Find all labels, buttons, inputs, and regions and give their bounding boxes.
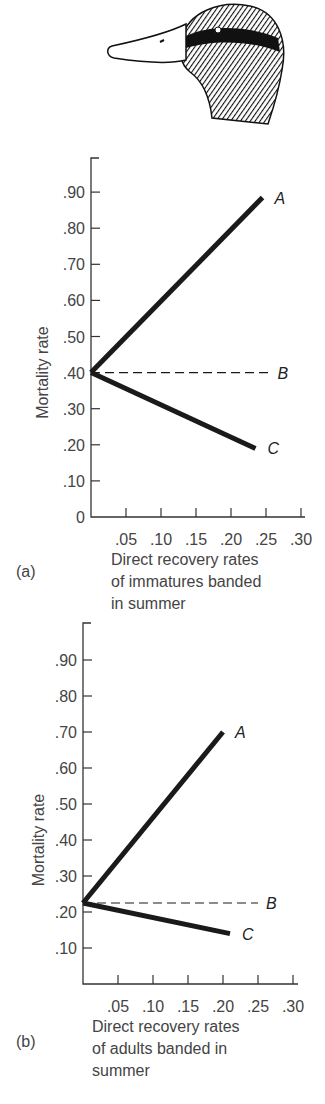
series-label-a: A: [234, 724, 246, 741]
y-tick-label: .90: [55, 652, 77, 669]
x-tick-label: .20: [212, 998, 234, 1015]
y-tick-label: .60: [55, 760, 77, 777]
x-tick-label: .05: [107, 998, 129, 1015]
x-tick-label: .15: [177, 998, 199, 1015]
axes: [83, 623, 298, 984]
y-axis-title: Mortality rate: [30, 794, 47, 887]
x-axis-title-line: Direct recovery rates: [92, 1018, 240, 1035]
panel-label: (b): [16, 1033, 36, 1050]
chart-b: .10.20.30.40.50.60.70.80.90.05.10.15.20.…: [0, 0, 325, 1104]
series-line-a: [83, 732, 223, 903]
x-axis-title-line: of adults banded in: [92, 1040, 227, 1057]
series-label-c: C: [242, 926, 254, 943]
series-label-b: B: [266, 895, 277, 912]
x-tick-label: .25: [247, 998, 269, 1015]
x-axis-title-line: summer: [92, 1062, 150, 1079]
y-tick-label: .80: [55, 688, 77, 705]
y-tick-label: .40: [55, 832, 77, 849]
chart-b-plot: .10.20.30.40.50.60.70.80.90.05.10.15.20.…: [0, 0, 325, 1104]
y-tick-label: .70: [55, 724, 77, 741]
series-line-c: [83, 903, 230, 934]
y-tick-label: .20: [55, 904, 77, 921]
y-tick-label: .10: [55, 940, 77, 957]
y-tick-label: .30: [55, 868, 77, 885]
x-tick-label: .30: [282, 998, 304, 1015]
y-tick-label: .50: [55, 796, 77, 813]
x-tick-label: .10: [142, 998, 164, 1015]
